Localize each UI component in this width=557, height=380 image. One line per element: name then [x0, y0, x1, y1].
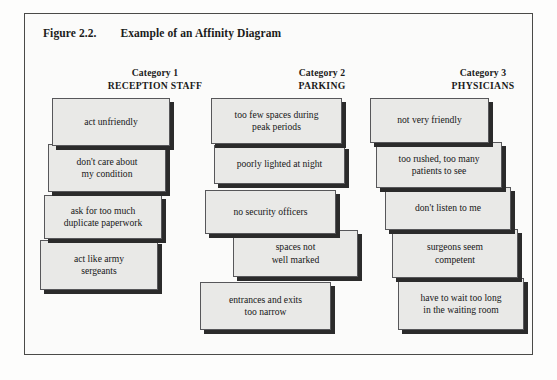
affinity-card[interactable]: have to wait too long in the waiting roo… [398, 278, 524, 330]
category-3-label: Category 3 [408, 67, 557, 80]
affinity-card[interactable]: don't care about my condition [48, 144, 166, 192]
affinity-card-text: too few spaces during peak periods [230, 109, 324, 134]
affinity-card-text: have to wait too long in the waiting roo… [416, 292, 507, 317]
category-3-name: PHYSICIANS [408, 80, 557, 93]
column-header-category-1: Category 1 RECEPTION STAFF [80, 67, 230, 92]
category-2-name: PARKING [247, 80, 397, 93]
affinity-card[interactable]: not very friendly [370, 98, 489, 143]
affinity-card-text: act like army sergeants [69, 253, 129, 278]
affinity-card[interactable]: ask for too much duplicate paperwork [44, 195, 162, 239]
category-2-label: Category 2 [247, 67, 397, 80]
affinity-card[interactable]: act unfriendly [52, 98, 170, 146]
page-background: Figure 2.2. Example of an Affinity Diagr… [0, 0, 557, 380]
affinity-card[interactable]: entrances and exits too narrow [200, 282, 331, 330]
affinity-card-text: no security officers [229, 206, 313, 218]
affinity-card-text: don't listen to me [410, 202, 486, 214]
affinity-card-text: act unfriendly [79, 116, 143, 128]
affinity-card[interactable]: surgeons seem competent [392, 229, 518, 278]
affinity-card[interactable]: poorly lighted at night [214, 145, 345, 184]
affinity-card-text: ask for too much duplicate paperwork [59, 205, 148, 230]
column-header-category-3: Category 3 PHYSICIANS [408, 67, 557, 92]
category-1-name: RECEPTION STAFF [80, 80, 230, 93]
column-header-category-2: Category 2 PARKING [247, 67, 397, 92]
affinity-card-text: not very friendly [392, 114, 466, 126]
affinity-card-text: spaces not well marked [267, 241, 325, 266]
affinity-card[interactable]: too few spaces during peak periods [211, 98, 342, 144]
affinity-card[interactable]: spaces not well marked [233, 230, 358, 277]
affinity-card-text: entrances and exits too narrow [224, 294, 307, 319]
affinity-card[interactable]: don't listen to me [385, 187, 511, 230]
affinity-card-text: too rushed, too many patients to see [393, 153, 484, 178]
affinity-card[interactable]: act like army sergeants [40, 240, 158, 290]
category-1-label: Category 1 [80, 67, 230, 80]
affinity-card[interactable]: too rushed, too many patients to see [376, 142, 502, 188]
affinity-card-text: surgeons seem competent [422, 241, 488, 266]
affinity-card-text: poorly lighted at night [232, 158, 328, 170]
figure-frame: Figure 2.2. Example of an Affinity Diagr… [24, 13, 533, 355]
figure-title: Figure 2.2. Example of an Affinity Diagr… [43, 27, 281, 39]
affinity-card[interactable]: no security officers [205, 190, 336, 234]
affinity-card-text: don't care about my condition [72, 156, 143, 181]
